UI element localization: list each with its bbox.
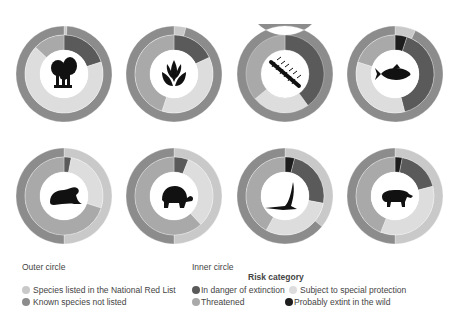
legend-item-listed: Species listed in the National Red List [22, 285, 176, 295]
donut-chart-birds [235, 146, 335, 246]
swatch-not-listed [22, 298, 30, 306]
swatch-threatened [192, 298, 200, 306]
donut-chart-reptiles [124, 146, 224, 246]
swatch-special-protection [289, 286, 297, 294]
legend-inner-title: Inner circle [192, 262, 234, 272]
legend-outer-title: Outer circle [22, 262, 65, 272]
donut-chart-amphibians [14, 146, 114, 246]
donut-chart-plants [124, 24, 224, 124]
legend-item-special-protection: Subject to special protection [289, 285, 406, 295]
legend-label: Threatened [201, 297, 244, 307]
swatch-in-danger [192, 286, 200, 294]
legend-label: In danger of extinction [201, 285, 285, 295]
donut-chart-fungi [14, 24, 114, 124]
donut-chart-fish [345, 24, 445, 124]
legend-item-extinct-wild: Probably extint in the wild [285, 297, 390, 307]
swatch-listed [22, 286, 30, 294]
swatch-extinct-wild [285, 298, 293, 306]
donut-chart-mammals [345, 146, 445, 246]
legend-item-in-danger: In danger of extinction [192, 285, 285, 295]
legend-label: Probably extint in the wild [294, 297, 390, 307]
legend-item-threatened: Threatened [192, 297, 244, 307]
legend-label: Subject to special protection [300, 285, 406, 295]
legend-item-not-listed: Known species not listed [22, 297, 127, 307]
legend-label: Species listed in the National Red List [33, 285, 176, 295]
legend-risk-title: Risk category [248, 272, 304, 282]
legend-label: Known species not listed [33, 297, 127, 307]
donut-chart-invertebrates [235, 24, 335, 124]
